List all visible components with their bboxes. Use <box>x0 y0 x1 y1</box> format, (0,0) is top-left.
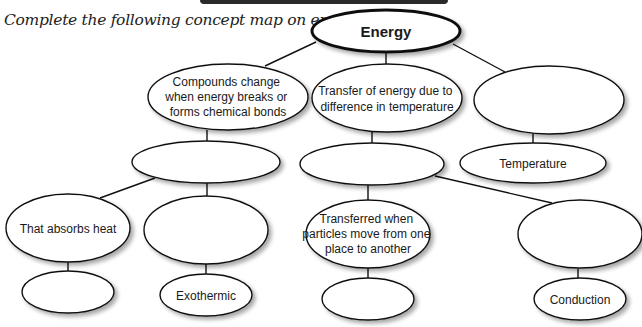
label-left-grandchild-a: That absorbs heat <box>20 222 117 236</box>
label-middle-leaf-b: Conduction <box>550 293 611 307</box>
label-left: Compounds change when energy breaks or f… <box>164 75 290 119</box>
node-left-leaf-a <box>22 271 114 313</box>
node-right <box>474 66 624 134</box>
node-left-grandchild-b <box>144 196 268 264</box>
connector-root-right <box>453 44 505 72</box>
node-middle-grandchild-b <box>518 200 642 268</box>
label-root: Energy <box>361 23 413 40</box>
node-middle-leaf-a <box>322 278 414 320</box>
node-left-child <box>132 141 280 183</box>
connector-left-grandchild-a <box>100 178 155 198</box>
connector-root-left <box>265 42 316 66</box>
node-middle <box>312 64 462 132</box>
label-right-child: Temperature <box>499 157 567 171</box>
concept-map: Energy Compounds change when energy brea… <box>0 0 642 327</box>
label-left-leaf-b: Exothermic <box>176 289 236 303</box>
node-middle-child <box>300 143 444 185</box>
